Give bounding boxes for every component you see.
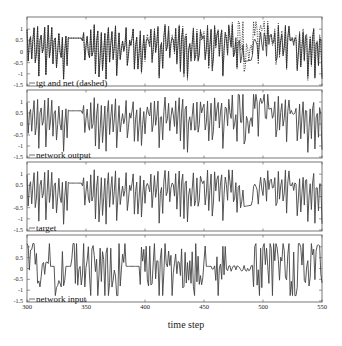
series-line	[27, 94, 322, 152]
y-tick-label: -1	[18, 71, 23, 77]
y-tick-label: -0.5	[14, 60, 24, 66]
x-tick-label: 450	[199, 303, 209, 310]
y-tick-label: 1	[20, 26, 23, 32]
panel-legend-label: target	[36, 223, 57, 233]
panel-2: 10.50-0.5-1-1.5network output	[14, 90, 323, 160]
y-tick-label: -1	[18, 216, 23, 222]
y-tick-label: 0	[20, 121, 23, 127]
x-tick-label: 350	[81, 303, 91, 310]
y-tick-label: -1	[18, 143, 23, 149]
y-tick-label: 0	[20, 49, 23, 55]
y-tick-label: 0	[20, 266, 23, 272]
y-tick-label: -1.5	[14, 82, 24, 88]
panel-4: 10.50-0.5-1-1.5network input	[14, 235, 323, 304]
x-tick-label: 550	[317, 303, 327, 310]
panel-3: 10.50-0.5-1-1.5target	[14, 162, 323, 233]
y-tick-label: 0.5	[16, 110, 24, 116]
y-tick-label: 1	[20, 99, 23, 105]
y-tick-label: -0.5	[14, 132, 24, 138]
y-tick-label: 0.5	[16, 37, 24, 43]
x-tick-label: 300	[22, 303, 32, 310]
y-tick-label: 0.5	[16, 255, 24, 261]
y-tick-label: 0.5	[16, 182, 24, 188]
y-tick-label: 1	[20, 171, 23, 177]
series-line	[27, 170, 322, 224]
stacked-time-series-chart: 10.50-0.5-1-1.5tgt and net (dashed)10.50…	[0, 0, 342, 346]
y-tick-label: -0.5	[14, 205, 24, 211]
panel-legend-label: network input	[36, 294, 87, 304]
panel-legend-label: tgt and net (dashed)	[36, 78, 107, 88]
y-tick-label: -1	[18, 287, 23, 293]
y-tick-label: -1.5	[14, 154, 24, 160]
x-tick-label: 500	[258, 303, 268, 310]
y-tick-label: 0	[20, 194, 23, 200]
x-axis-label: time step	[0, 319, 342, 330]
panel-1: 10.50-0.5-1-1.5tgt and net (dashed)	[14, 17, 323, 88]
panel-legend-label: network output	[36, 150, 91, 160]
x-tick-label: 400	[140, 303, 150, 310]
y-tick-label: -0.5	[14, 276, 24, 282]
series-line	[27, 244, 322, 296]
y-tick-label: 1	[20, 244, 23, 250]
y-tick-label: -1.5	[14, 227, 24, 233]
